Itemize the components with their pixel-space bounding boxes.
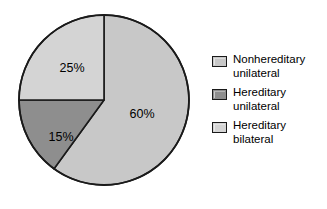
pie-chart-figure: 60% 15% 25% Nonhereditary unilateral Her… <box>0 0 327 209</box>
legend-item-label: Nonhereditary unilateral <box>233 53 305 80</box>
legend-item-nonhereditary-unilateral: Nonhereditary unilateral <box>212 53 324 80</box>
pie-label-25: 25% <box>59 61 84 75</box>
pie-chart-plot: 60% 15% 25% <box>17 13 191 187</box>
pie-label-60: 60% <box>129 107 154 121</box>
pie-svg: 60% 15% 25% <box>17 13 191 187</box>
legend-swatch-icon <box>212 56 227 67</box>
legend-item-label: Hereditary bilateral <box>233 119 286 146</box>
legend: Nonhereditary unilateral Hereditary unil… <box>212 53 324 152</box>
legend-swatch-icon <box>212 122 227 133</box>
legend-item-label: Hereditary unilateral <box>233 86 286 113</box>
legend-item-hereditary-unilateral: Hereditary unilateral <box>212 86 324 113</box>
pie-slice-hereditary-bilateral <box>19 15 104 100</box>
legend-swatch-icon <box>212 89 227 100</box>
pie-label-15: 15% <box>48 130 73 144</box>
legend-item-hereditary-bilateral: Hereditary bilateral <box>212 119 324 146</box>
